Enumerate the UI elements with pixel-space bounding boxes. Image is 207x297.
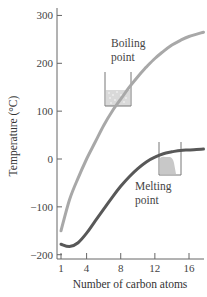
chart: 3002001000−100−200 1481216 Temperature (… — [0, 0, 207, 297]
melting-beaker-icon — [159, 142, 181, 175]
x-axis-title: Number of carbon atoms — [73, 278, 188, 290]
boiling-point-label: Boiling — [111, 37, 146, 50]
x-tick-label: 8 — [118, 262, 124, 274]
melting-point-curve — [61, 149, 204, 247]
y-tick-label: −100 — [30, 201, 53, 213]
x-tick-label: 4 — [84, 262, 90, 274]
x-tick-label: 12 — [149, 262, 160, 274]
x-tick-label: 16 — [184, 262, 196, 274]
melting-point-label: Melting — [135, 180, 172, 193]
y-tick-label: 300 — [37, 9, 54, 21]
boiling-point-label-line2: point — [111, 51, 135, 64]
y-tick-label: 0 — [48, 153, 54, 165]
melting-point-label-line2: point — [135, 194, 159, 207]
x-tick-label: 1 — [58, 262, 64, 274]
x-ticks: 1481216 — [58, 253, 195, 274]
y-axis-title: Temperature (°C) — [7, 95, 20, 176]
y-tick-label: −200 — [30, 249, 53, 261]
y-tick-label: 200 — [37, 57, 54, 69]
y-tick-label: 100 — [37, 105, 54, 117]
